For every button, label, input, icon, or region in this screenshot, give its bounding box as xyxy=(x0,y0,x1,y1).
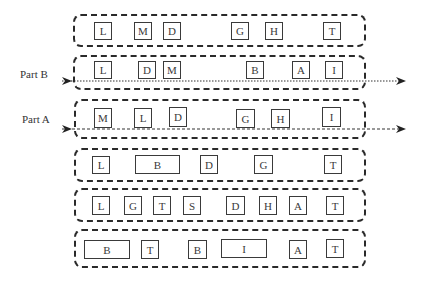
arrows-layer xyxy=(0,0,425,284)
part-b-arrow xyxy=(62,77,406,85)
part-a-arrow xyxy=(62,125,406,133)
